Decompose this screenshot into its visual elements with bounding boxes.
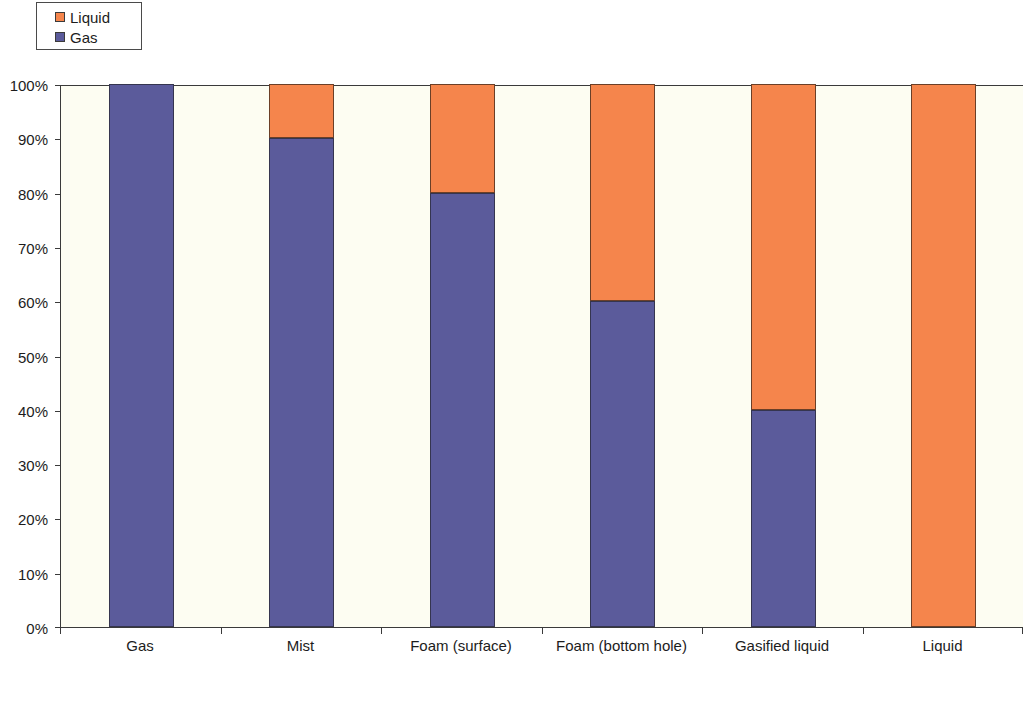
y-tick-label: 70% (18, 239, 48, 256)
bar-segment-gas (751, 410, 816, 627)
bar-foam-bottom-hole (590, 84, 655, 627)
x-tick-mark (381, 628, 382, 634)
x-axis-label: Liquid (922, 637, 962, 654)
bar-segment-gas (269, 138, 334, 627)
bar-gasified-liquid (751, 84, 816, 627)
bar-gas (109, 84, 174, 627)
y-tick-label: 60% (18, 294, 48, 311)
x-tick-mark (60, 628, 61, 634)
x-axis-label: Gas (126, 637, 154, 654)
y-tick-label: 50% (18, 348, 48, 365)
y-tick-label: 20% (18, 511, 48, 528)
increasing-density-annotation: Increasing Density (0, 668, 1023, 714)
bar-segment-liquid (911, 84, 976, 627)
x-tick-mark (702, 628, 703, 634)
x-axis-label: Foam (bottom hole) (556, 637, 687, 654)
bar-segment-liquid (269, 84, 334, 138)
x-tick-mark (863, 628, 864, 634)
chart-legend: Liquid Gas (36, 2, 142, 50)
bar-segment-gas (430, 193, 495, 627)
x-axis-label: Mist (287, 637, 315, 654)
bar-mist (269, 84, 334, 627)
y-tick-label: 10% (18, 565, 48, 582)
x-axis-tick-marks (60, 628, 1023, 635)
bar-liquid (911, 84, 976, 627)
bar-segment-liquid (751, 84, 816, 410)
y-tick-label: 100% (10, 77, 48, 94)
bar-foam-surface (430, 84, 495, 627)
y-tick-label: 80% (18, 185, 48, 202)
legend-swatch-liquid-icon (55, 12, 65, 22)
y-axis-tick-labels: 100% 90% 80% 70% 60% 50% 40% 30% 20% 10%… (0, 85, 56, 628)
y-tick-label: 40% (18, 402, 48, 419)
x-tick-mark (221, 628, 222, 634)
x-axis-label: Foam (surface) (410, 637, 512, 654)
y-tick-label: 90% (18, 131, 48, 148)
bar-segment-liquid (430, 84, 495, 193)
x-tick-mark (542, 628, 543, 634)
legend-item-liquid: Liquid (37, 7, 141, 27)
y-tick-label: 0% (26, 620, 48, 637)
bar-segment-gas (109, 84, 174, 627)
chart-plot-area (60, 85, 1023, 628)
legend-item-gas: Gas (37, 27, 141, 47)
x-axis-label: Gasified liquid (735, 637, 829, 654)
legend-label-gas: Gas (70, 30, 98, 45)
x-axis-category-labels: GasMistFoam (surface)Foam (bottom hole)G… (60, 637, 1023, 661)
bar-segment-liquid (590, 84, 655, 301)
legend-label-liquid: Liquid (70, 10, 110, 25)
legend-swatch-gas-icon (55, 32, 65, 42)
bar-segment-gas (590, 301, 655, 627)
y-tick-label: 30% (18, 457, 48, 474)
